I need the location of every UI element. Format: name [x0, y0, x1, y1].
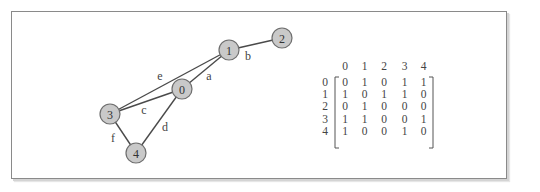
matrix-column-header: 4: [421, 60, 427, 72]
node-0: 0: [172, 79, 192, 99]
matrix-cell: 0: [421, 125, 427, 137]
matrix-cell: 1: [362, 76, 368, 88]
node-4: 4: [126, 143, 146, 163]
node-3: 3: [100, 104, 120, 124]
edge-label-a: a: [206, 69, 212, 83]
node-label: 1: [226, 44, 232, 58]
edge-label-e: e: [157, 69, 162, 83]
edge-label-c: c: [141, 103, 146, 117]
matrix-row-header: 4: [322, 125, 328, 137]
matrix-cell: 0: [381, 125, 387, 137]
matrix-cell: 0: [381, 100, 387, 112]
graph-edges: [110, 38, 282, 153]
matrix-row-header: 0: [322, 76, 328, 88]
matrix-cell: 1: [342, 113, 348, 125]
matrix-cell: 0: [342, 100, 348, 112]
edge-d: [136, 89, 182, 153]
edge-label-b: b: [245, 49, 251, 63]
matrix-cell: 0: [402, 100, 408, 112]
matrix-right-bracket: [429, 77, 433, 148]
matrix-cell: 1: [402, 76, 408, 88]
matrix-cell: 1: [362, 113, 368, 125]
matrix-cell: 0: [342, 76, 348, 88]
matrix-column-header: 0: [342, 60, 348, 72]
matrix-row-header: 3: [322, 113, 328, 125]
matrix-row-header: 2: [322, 100, 328, 112]
diagram-canvas: abcdef 01234 012340123401011101100100011…: [0, 0, 540, 192]
node-label: 4: [133, 147, 139, 161]
matrix-column-header: 2: [381, 60, 387, 72]
matrix-cell: 0: [421, 88, 427, 100]
matrix-cell: 1: [402, 125, 408, 137]
node-1: 1: [219, 40, 239, 60]
node-2: 2: [272, 28, 292, 48]
matrix-column-header: 1: [362, 60, 368, 72]
node-label: 0: [179, 83, 185, 97]
matrix-cell: 1: [421, 76, 427, 88]
matrix-cell: 0: [381, 113, 387, 125]
matrix-cell: 1: [362, 100, 368, 112]
matrix-cell: 0: [381, 76, 387, 88]
matrix-cell: 1: [342, 88, 348, 100]
edge-label-d: d: [162, 120, 168, 134]
node-label: 2: [279, 32, 285, 46]
matrix-cell: 1: [402, 88, 408, 100]
adjacency-matrix: 01234012340101110110010001100110010: [322, 60, 433, 148]
matrix-cell: 1: [342, 125, 348, 137]
matrix-row-header: 1: [322, 88, 328, 100]
matrix-cell: 1: [381, 88, 387, 100]
matrix-column-header: 3: [402, 60, 408, 72]
matrix-cell: 0: [362, 88, 368, 100]
node-label: 3: [107, 108, 113, 122]
matrix-cell: 0: [421, 100, 427, 112]
matrix-left-bracket: [335, 77, 339, 148]
matrix-cell: 0: [402, 113, 408, 125]
matrix-cell: 0: [362, 125, 368, 137]
matrix-cell: 1: [421, 113, 427, 125]
edge-label-f: f: [111, 131, 115, 145]
